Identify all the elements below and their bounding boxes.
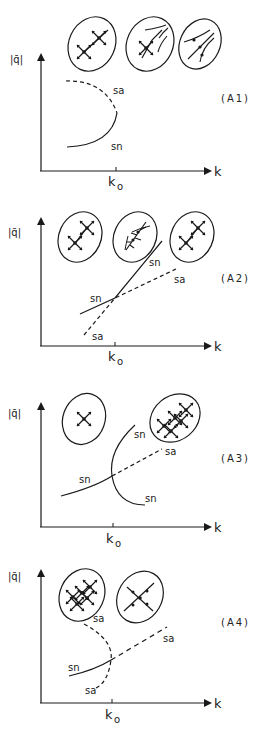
svg-text:o: o — [117, 356, 123, 367]
panel-label: (A3) — [221, 453, 250, 464]
svg-text:sa: sa — [92, 331, 103, 342]
curve-sa — [112, 449, 162, 476]
x-axis-label: k — [214, 339, 222, 354]
label-sa: sa — [113, 85, 124, 96]
k0-label: k — [108, 174, 116, 189]
bifurcation-figure: sa sn |q̄| k k o (A1) — [0, 0, 260, 729]
svg-text:sn: sn — [145, 493, 157, 504]
inset-a2-1 — [50, 205, 110, 270]
inset-a1-2 — [117, 9, 182, 79]
svg-text:sn: sn — [68, 662, 80, 673]
inset-a1-3 — [171, 12, 229, 76]
k0-label: k — [105, 707, 113, 722]
panel-a1: sa sn |q̄| k k o (A1) — [10, 9, 250, 192]
label-sn: sn — [111, 141, 123, 152]
svg-text:o: o — [114, 714, 120, 725]
y-axis-label: |q̄| — [8, 408, 21, 420]
svg-text:o: o — [117, 181, 123, 192]
svg-text:sn: sn — [79, 474, 91, 485]
svg-text:sa: sa — [85, 685, 96, 696]
svg-text:sn: sn — [134, 429, 146, 440]
panel-label: (A4) — [221, 617, 250, 628]
curve-sn — [67, 113, 117, 147]
inset-a3-2 — [140, 384, 210, 452]
k0-label: k — [106, 531, 114, 546]
x-axis-label: k — [214, 164, 222, 179]
inset-a2-3 — [162, 205, 222, 270]
panel-label: (A1) — [221, 93, 250, 104]
y-axis-label: |q̄| — [10, 54, 23, 66]
curve-sa — [84, 624, 111, 688]
svg-text:sn: sn — [90, 293, 102, 304]
panel-a2: sn sa sn sa |q̄| k k o (A2) — [8, 205, 250, 367]
x-axis-label: k — [214, 696, 222, 711]
curve-sa — [111, 627, 167, 660]
x-axis-label: k — [214, 520, 222, 535]
curve-sa — [66, 81, 117, 113]
panel-a4: sa sa sn sa |q̄| k k o (A4) — [8, 561, 250, 725]
svg-text:sa: sa — [93, 613, 104, 624]
svg-text:o: o — [115, 538, 121, 549]
inset-a1-1 — [59, 9, 124, 79]
y-axis-label: |q̄| — [8, 227, 21, 239]
panel-label: (A2) — [221, 273, 250, 284]
inset-a3-1 — [55, 387, 112, 450]
svg-text:sa: sa — [165, 446, 176, 457]
svg-text:sn: sn — [149, 257, 161, 268]
svg-text:sa: sa — [174, 274, 185, 285]
inset-a4-2 — [107, 563, 172, 632]
panel-a3: sn sa sn sn |q̄| k k o (A3) — [8, 384, 250, 549]
k0-label: k — [108, 349, 116, 364]
svg-text:sa: sa — [163, 633, 174, 644]
y-axis-label: |q̄| — [8, 571, 21, 583]
